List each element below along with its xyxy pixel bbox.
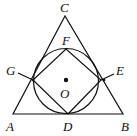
point-g (32, 79, 35, 82)
label-d: D (62, 119, 73, 134)
label-g: G (6, 63, 16, 78)
leader-g (18, 73, 33, 80)
point-e (103, 79, 106, 82)
leader-e (101, 74, 114, 80)
label-e: E (115, 63, 124, 78)
center-point-o (64, 78, 68, 82)
label-o: O (60, 86, 70, 101)
label-a: A (5, 119, 14, 134)
label-f: F (61, 33, 71, 48)
label-c: C (60, 0, 69, 15)
label-b: B (121, 119, 129, 134)
geometry-diagram: C F G E O A D B (0, 0, 137, 136)
